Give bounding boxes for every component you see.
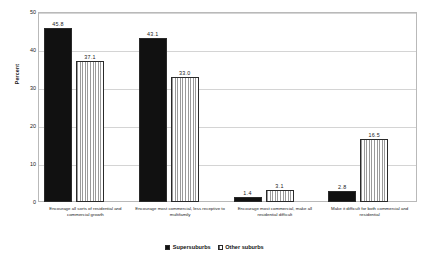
y-axis-title: Percent bbox=[14, 44, 20, 104]
y-axis-tick-label: 40 bbox=[12, 47, 36, 53]
y-axis-tick-label: 0 bbox=[12, 199, 36, 205]
legend-swatch-icon bbox=[218, 245, 223, 250]
bar-group: 2.816.5 bbox=[322, 12, 417, 202]
bar-value-label: 37.1 bbox=[84, 54, 96, 60]
bar-chart: Percent 01020304050 45.837.143.133.01.43… bbox=[0, 0, 429, 265]
bar[interactable]: 3.1 bbox=[266, 190, 294, 202]
y-axis-tick-label: 30 bbox=[12, 85, 36, 91]
bar[interactable]: 33.0 bbox=[171, 77, 199, 202]
x-axis-category-label: Encourage most commercial, less receptiv… bbox=[135, 206, 226, 218]
bar-value-label: 2.8 bbox=[338, 184, 346, 190]
bar[interactable]: 16.5 bbox=[360, 139, 388, 202]
legend-label: Supersuburbs bbox=[173, 244, 211, 250]
legend-label: Other suburbs bbox=[225, 244, 264, 250]
y-axis-tick-label: 50 bbox=[12, 9, 36, 15]
legend-swatch-icon bbox=[165, 245, 170, 250]
bar-group: 1.43.1 bbox=[228, 12, 323, 202]
chart-legend: SupersuburbsOther suburbs bbox=[0, 244, 429, 250]
bar-groups: 45.837.143.133.01.43.12.816.5 bbox=[38, 12, 417, 202]
bar-group: 45.837.1 bbox=[38, 12, 133, 202]
x-axis-category-label: Encourage all sorts of residential and c… bbox=[40, 206, 131, 218]
bar[interactable]: 43.1 bbox=[139, 38, 167, 202]
legend-item[interactable]: Other suburbs bbox=[218, 244, 264, 250]
bar[interactable]: 37.1 bbox=[76, 61, 104, 202]
x-axis-category-labels: Encourage all sorts of residential and c… bbox=[38, 206, 417, 232]
bar[interactable]: 1.4 bbox=[234, 197, 262, 202]
bar-value-label: 1.4 bbox=[243, 190, 251, 196]
bar[interactable]: 45.8 bbox=[44, 28, 72, 202]
bar-value-label: 3.1 bbox=[275, 183, 283, 189]
y-axis-tick-label: 20 bbox=[12, 123, 36, 129]
bar-value-label: 16.5 bbox=[368, 132, 380, 138]
legend-item[interactable]: Supersuburbs bbox=[165, 244, 210, 250]
y-axis-tick-label: 10 bbox=[12, 161, 36, 167]
bar-group: 43.133.0 bbox=[133, 12, 228, 202]
bar-value-label: 43.1 bbox=[147, 31, 159, 37]
bar-value-label: 45.8 bbox=[52, 21, 64, 27]
bar[interactable]: 2.8 bbox=[328, 191, 356, 202]
x-axis-category-label: Make it difficult for both commercial an… bbox=[324, 206, 415, 218]
x-axis-category-label: Encourage most commercial, make all resi… bbox=[230, 206, 321, 218]
bar-value-label: 33.0 bbox=[179, 70, 191, 76]
